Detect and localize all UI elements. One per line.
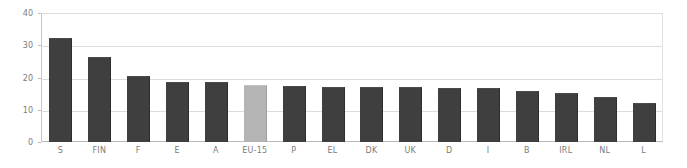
y-tick-label: 30 <box>23 41 33 50</box>
x-tick-label-fin: FIN <box>80 146 119 155</box>
bar-fin <box>88 57 111 142</box>
y-tick-label: 20 <box>23 73 33 82</box>
x-tick-label-dk: DK <box>352 146 391 155</box>
bar-eu-15 <box>244 85 267 142</box>
y-tick-label: 0 <box>28 138 33 147</box>
x-tick-label-l: L <box>624 146 663 155</box>
y-tick-mark <box>38 78 41 79</box>
bar-chart: 010203040 SFINFEAEU-15PELDKUKDIBIRLNLL <box>0 0 687 168</box>
y-tick-label: 10 <box>23 105 33 114</box>
bar-f <box>127 76 150 142</box>
bar-d <box>438 88 461 142</box>
x-tick-label-uk: UK <box>391 146 430 155</box>
y-axis: 010203040 <box>0 13 37 142</box>
x-tick-label-a: A <box>197 146 236 155</box>
x-tick-label-f: F <box>119 146 158 155</box>
x-tick-label-el: EL <box>313 146 352 155</box>
x-tick-label-i: I <box>469 146 508 155</box>
bar-p <box>283 86 306 142</box>
x-tick-label-p: P <box>274 146 313 155</box>
bar-el <box>322 87 345 143</box>
x-tick-label-nl: NL <box>585 146 624 155</box>
bar-i <box>477 88 500 142</box>
x-axis: SFINFEAEU-15PELDKUKDIBIRLNLL <box>41 146 663 164</box>
x-tick-label-b: B <box>508 146 547 155</box>
x-tick-label-d: D <box>430 146 469 155</box>
x-tick-label-e: E <box>158 146 197 155</box>
bar-b <box>516 91 539 142</box>
bar-uk <box>399 87 422 142</box>
x-tick-label-eu-15: EU-15 <box>235 146 274 155</box>
bar-s <box>49 38 72 142</box>
bar-a <box>205 82 228 142</box>
y-tick-mark <box>38 142 41 143</box>
bar-nl <box>594 97 617 143</box>
bar-e <box>166 82 189 142</box>
y-tick-mark <box>38 110 41 111</box>
y-tick-label: 40 <box>23 9 33 18</box>
x-tick-label-s: S <box>41 146 80 155</box>
bar-l <box>633 103 656 142</box>
bar-irl <box>555 93 578 142</box>
y-tick-mark <box>38 13 41 14</box>
x-tick-label-irl: IRL <box>546 146 585 155</box>
bar-dk <box>360 87 383 142</box>
y-tick-mark <box>38 45 41 46</box>
bars-layer <box>41 13 663 142</box>
